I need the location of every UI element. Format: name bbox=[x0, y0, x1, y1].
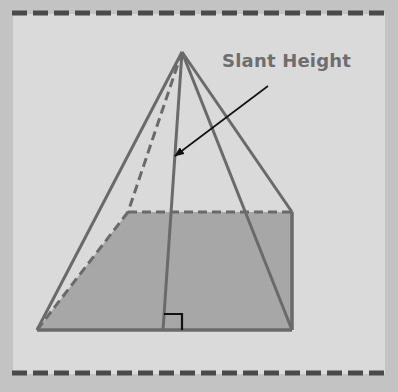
slant-height-label: Slant Height bbox=[222, 50, 351, 71]
slant-height-arrow bbox=[175, 86, 268, 156]
